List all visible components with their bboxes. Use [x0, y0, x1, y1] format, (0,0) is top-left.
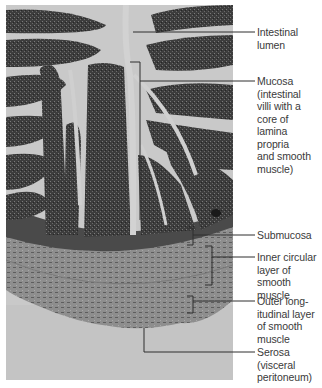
- intestine-wall-figure: Intestinal lumen Mucosa (intestinal vill…: [0, 0, 322, 388]
- label-mucosa: Mucosa (intestinal villi with a core of …: [257, 75, 322, 175]
- bracket-mucosa: [130, 62, 140, 220]
- leader-serosa: [144, 328, 255, 352]
- label-serosa: Serosa (visceral peritoneum): [257, 346, 312, 384]
- bracket-outer-longitudinal: [187, 296, 193, 313]
- label-outer-longitudinal: Outer long- itudinal layer of smooth mus…: [257, 295, 315, 345]
- bracket-submucosa: [187, 228, 193, 245]
- label-inner-circular: Inner circular layer of smooth muscle: [257, 251, 322, 301]
- label-intestinal-lumen: Intestinal lumen: [257, 26, 298, 51]
- bracket-inner-circular: [205, 246, 212, 285]
- label-submucosa: Submucosa: [257, 229, 312, 242]
